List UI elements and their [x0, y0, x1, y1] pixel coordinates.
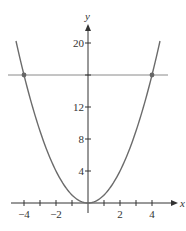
y-tick-label: 20: [73, 37, 85, 49]
y-axis-arrow-icon: [85, 24, 91, 31]
x-tick-label: −4: [18, 208, 30, 220]
x-tick-label: 4: [149, 208, 155, 220]
x-tick-label: 2: [117, 208, 123, 220]
intersection-point: [22, 73, 27, 78]
x-axis-label: x: [179, 197, 185, 209]
y-axis-label: y: [84, 10, 90, 22]
x-axis-arrow-icon: [171, 200, 178, 206]
y-tick-label: 12: [73, 101, 84, 113]
y-tick-label: 4: [79, 165, 85, 177]
x-tick-label: −2: [50, 208, 62, 220]
y-tick-label: 8: [79, 133, 85, 145]
intersection-point: [150, 73, 155, 78]
parabola-chart: −4−224 481220 x y: [0, 0, 186, 231]
